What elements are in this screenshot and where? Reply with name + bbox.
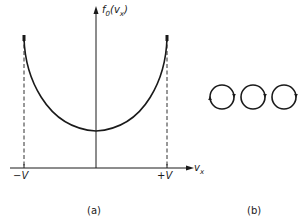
figure: f0(vx) vx −V +V (a) (b): [0, 0, 303, 224]
orbit-arrow-icon: [208, 96, 212, 100]
y-axis-label: f0(vx): [102, 4, 128, 18]
x-axis-arrow-icon: [186, 166, 194, 171]
orbit-arrow-icon: [232, 94, 236, 98]
caption-panel-b: (b): [247, 205, 261, 216]
panel-a-plot: [10, 6, 194, 171]
orbit-arrow-icon: [263, 94, 267, 98]
orbit-circle-1: [210, 85, 234, 109]
x-axis-label: vx: [194, 162, 204, 176]
tick-label-negative-v: −V: [13, 170, 28, 181]
tick-label-positive-v: +V: [157, 170, 172, 181]
y-axis-arrow-icon: [94, 6, 99, 14]
diagram-canvas: [0, 0, 303, 224]
orbit-circle-2: [241, 85, 265, 109]
orbit-arrow-icon: [294, 94, 298, 98]
orbit-arrows: [208, 94, 298, 100]
orbit-circle-3: [272, 85, 296, 109]
caption-panel-a: (a): [87, 205, 101, 216]
panel-b-orbits: [210, 85, 296, 109]
